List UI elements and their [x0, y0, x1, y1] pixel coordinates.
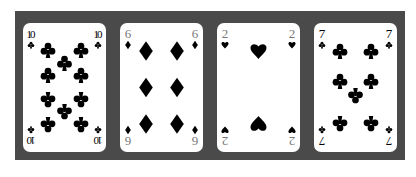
diamond-pip-icon [139, 78, 153, 98]
heart-icon [221, 42, 228, 49]
club-pip-icon [41, 92, 56, 107]
card-face: 6666 [120, 23, 203, 152]
rank-label: 2 [222, 134, 229, 149]
club-pip-icon [364, 44, 379, 59]
rank-label: 10 [94, 28, 104, 40]
rank-label: 2 [289, 134, 296, 149]
diamond-icon [192, 41, 198, 49]
rank-label: 10 [93, 135, 103, 147]
club-pip-icon [57, 56, 72, 71]
club-pip-icon [348, 88, 363, 103]
diamond-icon [125, 126, 131, 134]
rank-label: 2 [222, 26, 229, 41]
heart-icon [288, 42, 295, 49]
club-icon [386, 42, 393, 49]
rank-label: 2 [289, 26, 296, 41]
diamond-pip-icon [170, 114, 184, 134]
card-face: 7777 [314, 23, 397, 152]
club-pip-icon [41, 43, 56, 58]
club-pip-icon [333, 44, 348, 59]
club-pip-icon [57, 104, 72, 119]
heart-pip-icon [251, 116, 267, 131]
rank-label: 7 [386, 26, 393, 41]
heart-pip-icon [251, 44, 267, 59]
diamond-icon [125, 41, 131, 49]
diamond-pip-icon [139, 41, 153, 61]
diamond-pip-icon [139, 114, 153, 134]
club-icon [95, 42, 102, 49]
club-icon [319, 126, 326, 133]
club-pip-icon [333, 116, 348, 131]
club-pip-icon [74, 68, 89, 83]
diamond-icon [192, 126, 198, 134]
card-10-clubs: 10101010 [23, 23, 106, 152]
card-face: 2222 [217, 23, 300, 152]
rank-label: 6 [192, 26, 199, 41]
club-pip-icon [364, 116, 379, 131]
club-icon [319, 42, 326, 49]
card-6-diamonds: 6666 [120, 23, 203, 152]
diamond-pip-icon [170, 78, 184, 98]
club-icon [28, 42, 35, 49]
rank-label: 7 [318, 134, 325, 149]
club-icon [28, 126, 35, 133]
rank-label: 6 [191, 134, 198, 149]
club-icon [95, 126, 102, 133]
club-pip-icon [333, 74, 348, 89]
card-face: 10101010 [23, 23, 106, 152]
club-pip-icon [74, 117, 89, 132]
card-2-hearts: 2222 [217, 23, 300, 152]
card-7-clubs: 7777 [314, 23, 397, 152]
club-pip-icon [364, 74, 379, 89]
club-pip-icon [74, 92, 89, 107]
club-pip-icon [41, 68, 56, 83]
heart-icon [221, 126, 228, 133]
club-pip-icon [41, 117, 56, 132]
rank-label: 6 [124, 134, 131, 149]
club-icon [386, 126, 393, 133]
rank-label: 7 [385, 134, 392, 149]
rank-label: 6 [125, 26, 132, 41]
club-pip-icon [74, 43, 89, 58]
rank-label: 10 [27, 28, 37, 40]
diamond-pip-icon [170, 41, 184, 61]
rank-label: 10 [26, 135, 36, 147]
rank-label: 7 [319, 26, 326, 41]
heart-icon [288, 126, 295, 133]
